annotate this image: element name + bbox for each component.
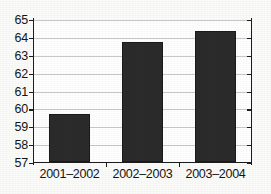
y-axis-tick-label: 60	[14, 103, 28, 116]
y-axis-tick-label: 62	[14, 67, 28, 80]
y-axis-tick-labels: 575859606162636465	[0, 20, 28, 163]
y-axis-tick-label: 57	[14, 157, 28, 170]
y-axis-tick-label: 63	[14, 50, 28, 63]
y-axis-tick-label: 59	[14, 121, 28, 134]
bar-chart: 575859606162636465 2001–20022002–2003200…	[0, 0, 271, 194]
x-axis-tick	[106, 163, 107, 167]
bar	[122, 42, 163, 162]
bottom-axis-spine	[33, 162, 252, 163]
y-axis-tick-label: 58	[14, 139, 28, 152]
x-axis-tick-label: 2003–2004	[186, 168, 246, 181]
x-axis-tick-label: 2001–2002	[40, 168, 100, 181]
left-axis-spine	[33, 18, 34, 165]
y-axis-tick-label: 61	[14, 85, 28, 98]
bar	[195, 31, 236, 162]
right-axis-spine	[251, 18, 252, 165]
plot-area	[33, 20, 252, 163]
y-axis-tick-label: 64	[14, 32, 28, 45]
x-axis-tick-label: 2002–2003	[113, 168, 173, 181]
gridline	[33, 20, 252, 21]
y-axis-tick-label: 65	[14, 14, 28, 27]
bar	[49, 114, 90, 162]
x-axis-tick-labels: 2001–20022002–20032003–2004	[33, 168, 252, 188]
x-axis-tick	[179, 163, 180, 167]
